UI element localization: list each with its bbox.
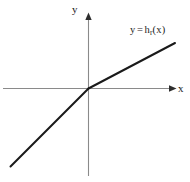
curve-equation-label: y=hr(x) [130,25,165,37]
curve-right-branch [89,43,176,89]
graph-figure: y x y=hr(x) [0,0,190,182]
curve-label-arg: (x) [153,24,166,35]
x-axis-arrowhead [169,85,177,91]
curve-label-equals: = [135,24,144,35]
y-axis-arrowhead [85,13,91,21]
curve-left-branch [11,89,89,167]
y-axis-label: y [72,4,78,15]
x-axis-label: x [178,83,184,94]
